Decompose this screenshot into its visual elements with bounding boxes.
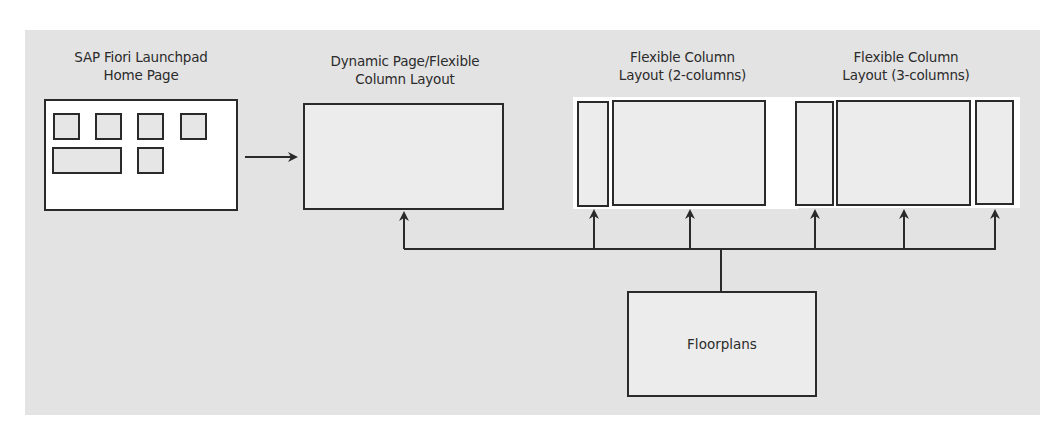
connector-lines [0, 0, 1062, 437]
